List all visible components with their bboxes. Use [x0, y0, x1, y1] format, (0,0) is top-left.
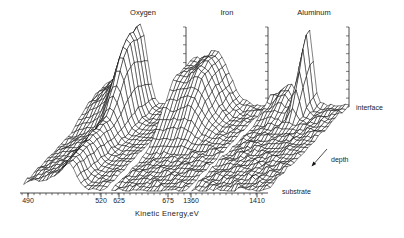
- x-tick-label: 1410: [249, 197, 265, 204]
- auger-depth-profile-figure: Oxygen Iron Aluminum interface depth sub…: [0, 0, 404, 238]
- x-axis-title: Kinetic Energy,eV: [135, 210, 199, 218]
- x-tick-label: 1360: [183, 197, 199, 204]
- x-tick-label: 675: [162, 197, 174, 204]
- interface-label: interface: [356, 104, 383, 111]
- x-tick-label: 625: [113, 197, 125, 204]
- aluminum-peak-label: Aluminum: [297, 9, 330, 17]
- oxygen-peak-label: Oxygen: [130, 9, 156, 17]
- iron-peak-label: Iron: [221, 9, 234, 17]
- waterfall-mesh-canvas: [0, 0, 404, 238]
- x-tick-label: 520: [95, 197, 107, 204]
- x-tick-label: 490: [22, 197, 34, 204]
- depth-axis-label: depth: [331, 156, 349, 163]
- substrate-label: substrate: [282, 188, 311, 195]
